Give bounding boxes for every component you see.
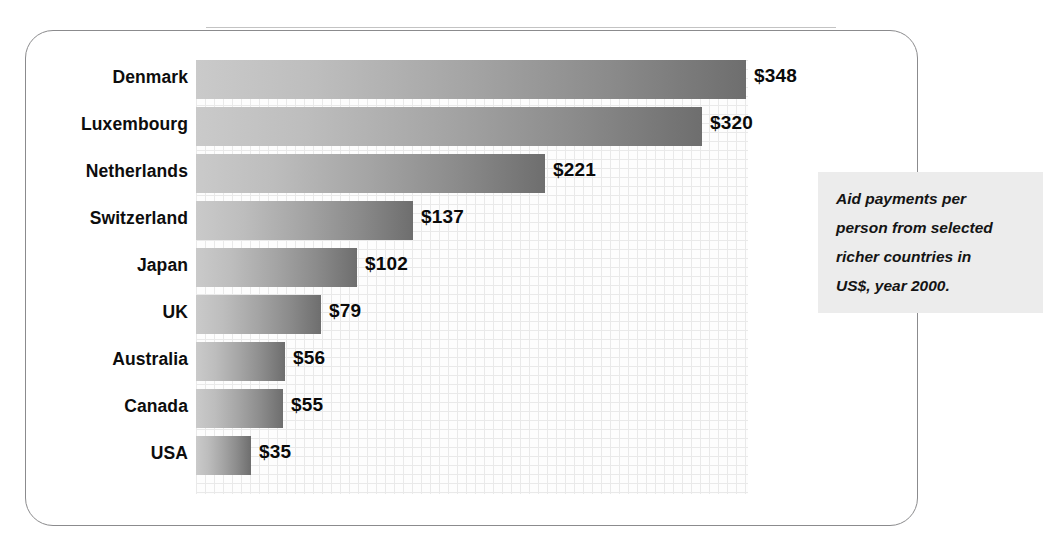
- bar-row: Denmark $348: [0, 56, 1043, 103]
- bar-fill: [196, 248, 357, 287]
- value-label-switzerland: $137: [421, 197, 464, 236]
- category-label-uk: UK: [163, 291, 188, 334]
- bar-denmark: [196, 60, 746, 99]
- category-label-denmark: Denmark: [112, 56, 188, 99]
- bar-uk: [196, 295, 321, 334]
- bar-fill: [196, 436, 251, 475]
- chart-figure: Denmark $348 Luxembourg $320 Netherlands…: [0, 0, 1043, 556]
- bar-row: Luxembourg $320: [0, 103, 1043, 150]
- bar-switzerland: [196, 201, 413, 240]
- bar-row: Australia $56: [0, 338, 1043, 385]
- category-label-australia: Australia: [112, 338, 188, 381]
- value-label-usa: $35: [259, 432, 291, 471]
- bar-australia: [196, 342, 285, 381]
- bar-row: USA $35: [0, 432, 1043, 479]
- value-label-uk: $79: [329, 291, 361, 330]
- annotation-line-1: Aid payments per: [836, 184, 1029, 213]
- bar-fill: [196, 295, 321, 334]
- value-label-netherlands: $221: [553, 150, 596, 189]
- annotation-line-4: US$, year 2000.: [836, 271, 1029, 300]
- bar-row: Canada $55: [0, 385, 1043, 432]
- bar-usa: [196, 436, 251, 475]
- value-label-canada: $55: [291, 385, 323, 424]
- bar-luxembourg: [196, 107, 702, 146]
- category-label-canada: Canada: [124, 385, 188, 428]
- value-label-australia: $56: [293, 338, 325, 377]
- category-label-luxembourg: Luxembourg: [81, 103, 188, 146]
- value-label-denmark: $348: [754, 56, 797, 95]
- value-label-luxembourg: $320: [710, 103, 753, 142]
- bar-fill: [196, 342, 285, 381]
- category-label-usa: USA: [151, 432, 188, 475]
- bar-fill: [196, 60, 746, 99]
- bar-fill: [196, 389, 283, 428]
- bar-fill: [196, 201, 413, 240]
- annotation-caption-box: Aid payments per person from selected ri…: [818, 172, 1043, 313]
- category-label-japan: Japan: [137, 244, 188, 287]
- bar-netherlands: [196, 154, 545, 193]
- bar-fill: [196, 107, 702, 146]
- annotation-line-3: richer countries in: [836, 242, 1029, 271]
- bar-japan: [196, 248, 357, 287]
- category-label-netherlands: Netherlands: [86, 150, 188, 193]
- value-label-japan: $102: [365, 244, 408, 283]
- category-label-switzerland: Switzerland: [90, 197, 188, 240]
- page-rule-line: [206, 27, 836, 28]
- bar-fill: [196, 154, 545, 193]
- bar-canada: [196, 389, 283, 428]
- annotation-line-2: person from selected: [836, 213, 1029, 242]
